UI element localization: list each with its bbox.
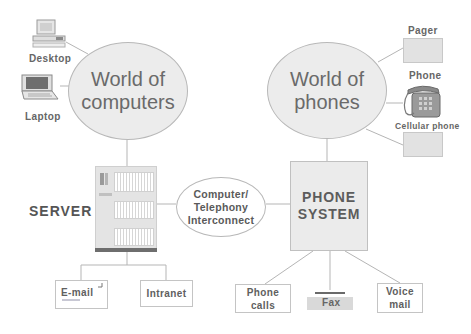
phones-line2: phones [290,91,364,114]
computer-telephony-interconnect-ellipse: Computer/ Telephony Interconnect [176,177,266,237]
server-drive-slot [105,173,108,185]
laptop-icon [20,73,60,103]
server-rack-icon [95,166,157,252]
fax-machine-icon: Fax [307,285,353,311]
phone-calls-box: Phone calls [235,284,291,313]
phones-line1: World of [290,68,364,91]
voice-mail-line1: Voice [386,285,414,298]
server-panel-middle [114,201,154,219]
server-label-plate [99,193,112,196]
desktop-computer-icon [30,18,70,50]
phone-system-line1: PHONE [298,189,360,206]
intranet-label: Intranet [147,287,187,300]
server-label: SERVER [29,203,92,219]
phone-system-line2: SYSTEM [298,206,360,223]
desktop-label: Desktop [29,53,71,64]
fax-paper-tray [315,292,345,294]
phone-calls-line1: Phone [247,286,280,299]
world-of-phones-ellipse: World of phones [267,42,387,139]
email-label: E-mail [61,286,93,299]
computers-line1: World of [81,68,174,91]
fax-label: Fax [322,297,340,308]
server-drive-slot [100,173,104,185]
desk-phone-icon [402,83,444,119]
server-base [95,248,157,252]
intranet-box: Intranet [140,280,193,307]
diagram-canvas: Desktop Laptop World of computers World … [0,0,471,334]
server-panel-bottom [114,228,154,246]
interconnect-line2: Telephony [188,201,255,214]
server-panel-top [114,172,154,192]
cellular-phone-label: Cellular phone [395,121,460,131]
pager-label: Pager [408,25,438,36]
pager-icon [403,38,443,63]
phone-system-box: PHONE SYSTEM [290,161,368,251]
email-envelope-icon [98,283,104,289]
voice-mail-box: Voice mail [377,283,423,313]
voice-mail-line2: mail [386,298,414,311]
email-underline-decoration [62,299,80,301]
cellular-phone-icon [403,132,443,157]
phone-label: Phone [409,70,442,81]
phone-calls-line2: calls [247,299,280,312]
interconnect-line1: Computer/ [188,188,255,201]
computers-line2: computers [81,91,174,114]
laptop-label: Laptop [25,111,61,122]
interconnect-line3: Interconnect [188,214,255,227]
world-of-computers-ellipse: World of computers [68,42,188,140]
